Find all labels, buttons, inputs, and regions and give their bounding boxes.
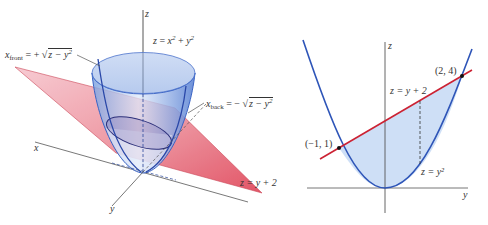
point-label-2-4: (2, 4): [435, 66, 457, 76]
sup-2: 2: [172, 34, 176, 42]
x-front-sup: 2: [68, 48, 72, 56]
x-back-sub: back: [210, 103, 223, 111]
sup-2: 2: [191, 34, 195, 42]
x-back-sign: = −: [226, 98, 240, 109]
equals-sign: =: [159, 35, 165, 46]
x-back-radicand: z − y: [249, 98, 269, 109]
x-back-leader: [188, 103, 204, 113]
plus-sign: +: [178, 35, 184, 46]
point-2-4: [460, 74, 464, 78]
x-back-label: xback = − √z − y2: [206, 97, 273, 111]
line-label: z = y + 2: [390, 86, 427, 96]
point-neg1-1: [337, 146, 341, 150]
x-back-sup: 2: [269, 97, 273, 105]
paraboloid-label: z = x2 + y2: [153, 35, 194, 46]
paraboloid-rim: [92, 53, 195, 94]
x-front-label: xfront = + √z − y2: [5, 48, 72, 62]
x-front-sign: = +: [26, 49, 40, 60]
right-z-axis-label: z: [388, 41, 392, 51]
y-axis: [112, 172, 143, 206]
parabola-label: z = y²: [421, 167, 444, 177]
sqrt-symbol: √: [242, 98, 248, 109]
x-front-leader: [77, 55, 100, 66]
paraboloid-lhs: z: [153, 35, 157, 46]
figure-canvas: [0, 0, 488, 225]
right-y-axis-label: y: [463, 190, 467, 200]
left-x-axis-label: x: [34, 143, 38, 153]
sqrt-symbol: √: [42, 49, 48, 60]
left-y-axis-label: y: [110, 204, 114, 214]
plane-label: z = y + 2: [240, 178, 277, 188]
x-front-radicand: z − y: [48, 49, 68, 60]
point-label-neg1-1: (−1, 1): [305, 139, 332, 149]
left-z-axis-label: z: [145, 9, 149, 19]
x-front-sub: front: [9, 54, 23, 62]
